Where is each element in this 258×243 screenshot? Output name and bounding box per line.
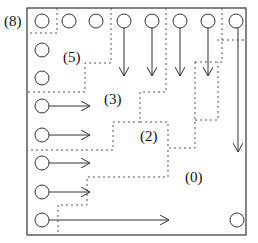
node-top-1	[35, 14, 49, 28]
node-left-2	[35, 43, 49, 57]
label-corner: (8)	[4, 13, 22, 30]
node-top-7	[201, 14, 215, 28]
boundary-2-right	[195, 62, 218, 120]
node-top-2	[62, 14, 76, 28]
top-row-nodes	[35, 14, 243, 28]
node-left-8	[35, 213, 49, 227]
node-left-4	[35, 99, 49, 113]
node-left-6	[35, 156, 49, 170]
node-top-5	[145, 14, 159, 28]
node-top-3	[89, 14, 103, 28]
dotted-boundaries	[27, 8, 246, 235]
outer-box	[27, 8, 246, 235]
label-region-0: (0)	[185, 169, 203, 186]
left-column-nodes	[35, 43, 49, 227]
label-region-5: (5)	[63, 49, 81, 66]
label-region-3: (3)	[104, 91, 122, 108]
node-left-5	[35, 128, 49, 142]
node-top-6	[173, 14, 187, 28]
node-top-8	[229, 14, 243, 28]
node-bottom-right	[230, 213, 244, 227]
node-left-3	[35, 71, 49, 85]
node-top-4	[117, 14, 131, 28]
label-region-2: (2)	[140, 128, 158, 145]
node-left-7	[35, 185, 49, 199]
diagram-svg: (8) (5) (3) (2) (0)	[0, 0, 258, 243]
diagram-canvas: (8) (5) (3) (2) (0)	[0, 0, 258, 243]
right-arrows	[49, 106, 169, 220]
